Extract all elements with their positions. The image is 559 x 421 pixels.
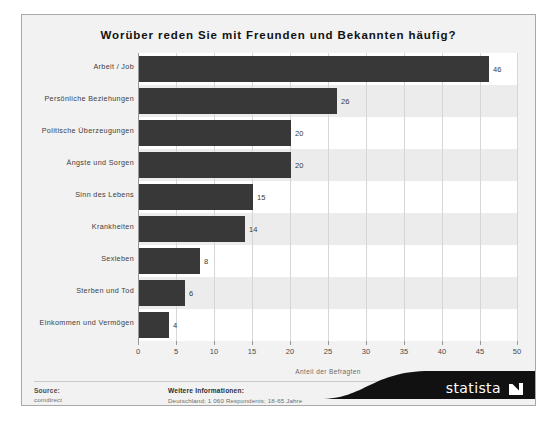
bar xyxy=(139,280,185,306)
x-tick-label: 35 xyxy=(400,347,408,356)
category-label: Politische Überzeugungen xyxy=(24,126,134,135)
bar-value-label: 46 xyxy=(493,65,501,74)
gridline xyxy=(517,53,518,341)
gridline xyxy=(404,53,405,341)
bar xyxy=(139,56,489,82)
category-label: Sinn des Lebens xyxy=(24,190,134,199)
x-tick-label: 30 xyxy=(362,347,370,356)
x-tick-label: 10 xyxy=(210,347,218,356)
page-title: Worüber reden Sie mit Freunden und Bekan… xyxy=(22,29,535,41)
x-tick xyxy=(176,341,177,345)
bar xyxy=(139,88,337,114)
x-tick-label: 15 xyxy=(248,347,256,356)
x-tick xyxy=(442,341,443,345)
statista-logo-banner xyxy=(320,369,535,399)
x-tick xyxy=(290,341,291,345)
infographic-card: Worüber reden Sie mit Freunden und Bekan… xyxy=(21,14,536,406)
bar xyxy=(139,312,169,338)
bar xyxy=(139,152,291,178)
bar-value-label: 8 xyxy=(204,257,208,266)
category-axis: Arbeit / Job Persönliche Beziehungen Pol… xyxy=(22,53,134,341)
source-block: Source: comdirect © Statista 2015 xyxy=(34,387,79,406)
x-tick-label: 0 xyxy=(136,347,140,356)
copyright-text: © Statista 2015 xyxy=(34,405,79,406)
category-label: Persönliche Beziehungen xyxy=(24,94,134,103)
bar-value-label: 20 xyxy=(295,161,303,170)
bar-value-label: 26 xyxy=(341,97,349,106)
x-tick xyxy=(328,341,329,345)
x-tick xyxy=(214,341,215,345)
category-label: Arbeit / Job xyxy=(24,62,134,71)
x-tick-label: 5 xyxy=(174,347,178,356)
category-label: Ängste und Sorgen xyxy=(24,158,134,167)
x-tick xyxy=(517,341,518,345)
x-tick-label: 50 xyxy=(513,347,521,356)
x-tick xyxy=(404,341,405,345)
bar xyxy=(139,216,245,242)
x-tick-label: 45 xyxy=(476,347,484,356)
source-heading: Source: xyxy=(34,387,79,394)
bar-value-label: 20 xyxy=(295,129,303,138)
x-tick xyxy=(138,341,139,345)
bar-value-label: 14 xyxy=(249,225,257,234)
category-label: Einkommen und Vermögen xyxy=(24,318,134,327)
category-label: Krankheiten xyxy=(24,222,134,231)
source-name: comdirect xyxy=(34,396,79,403)
x-tick xyxy=(366,341,367,345)
gridline xyxy=(366,53,367,341)
banner-swoosh-icon xyxy=(320,369,535,399)
bar-value-label: 4 xyxy=(173,321,177,330)
category-label: Sterben und Tod xyxy=(24,286,134,295)
x-tick xyxy=(480,341,481,345)
x-tick xyxy=(252,341,253,345)
statista-wordmark: statista xyxy=(446,380,501,396)
gridline xyxy=(442,53,443,341)
plot-area: 46 26 20 20 15 14 8 6 4 0 5 10 15 20 25 … xyxy=(138,53,518,341)
bar-value-label: 15 xyxy=(257,193,265,202)
category-label: Sexleben xyxy=(24,254,134,263)
x-tick-label: 25 xyxy=(324,347,332,356)
more-info-heading: Weitere Informationen: xyxy=(168,387,302,394)
bar-value-label: 6 xyxy=(189,289,193,298)
bar xyxy=(139,184,253,210)
statista-mark-icon xyxy=(509,383,523,395)
bar xyxy=(139,120,291,146)
more-info-detail: Deutschland; 1 060 Respondents; 18-65 Ja… xyxy=(168,397,302,404)
bar xyxy=(139,248,200,274)
x-tick-label: 40 xyxy=(438,347,446,356)
more-info-block: Weitere Informationen: Deutschland; 1 06… xyxy=(168,387,302,404)
x-tick-label: 20 xyxy=(286,347,294,356)
gridline xyxy=(480,53,481,341)
